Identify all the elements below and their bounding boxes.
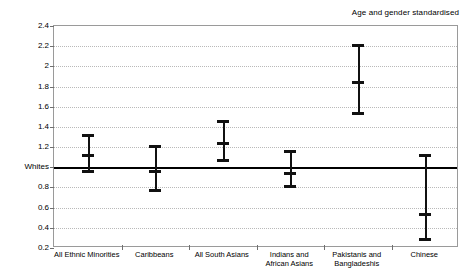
y-axis-tick: [50, 26, 54, 27]
error-bar-point-estimate: [284, 172, 296, 175]
error-bar-stem: [358, 44, 360, 115]
y-axis-tick: [50, 66, 54, 67]
y-axis-tick: [50, 187, 54, 188]
gridline: [54, 187, 457, 188]
error-bar-point-estimate: [149, 170, 161, 173]
y-axis-tick-label: 2.2: [38, 41, 49, 50]
gridline: [54, 127, 457, 128]
y-axis-tick-label: 1.6: [38, 101, 49, 110]
x-axis-category-label: All Ethnic Minorities: [53, 250, 121, 259]
x-axis-category-label: All South Asians: [188, 250, 256, 259]
error-bar-stem: [425, 154, 427, 241]
y-axis-tick: [50, 87, 54, 88]
error-bar-lower-cap: [82, 170, 94, 173]
error-bar-lower-cap: [149, 189, 161, 192]
y-axis-tick: [50, 248, 54, 249]
error-bar-point-estimate: [352, 81, 364, 84]
gridline: [54, 46, 457, 47]
gridline: [54, 228, 457, 229]
y-axis-tick-label: 0.8: [38, 182, 49, 191]
error-bar-upper-cap: [352, 44, 364, 47]
y-axis-tick-label: 2.4: [38, 21, 49, 30]
error-bar-point-estimate: [217, 142, 229, 145]
reference-line-whites: [54, 167, 457, 169]
gridline: [54, 87, 457, 88]
x-axis-category-label: Caribbeans: [121, 250, 189, 259]
chart-annotation: Age and gender standardised: [352, 8, 459, 17]
error-bar-stem: [223, 120, 225, 162]
y-axis-tick: [50, 208, 54, 209]
y-axis-tick: [50, 46, 54, 47]
x-axis-category-label: Pakistanis and Bangladeshis: [323, 250, 391, 268]
plot-area: [53, 25, 458, 247]
error-bar-point-estimate: [419, 213, 431, 216]
y-axis-reference-label: Whites: [25, 162, 49, 171]
y-axis-tick: [50, 107, 54, 108]
error-bar-upper-cap: [419, 154, 431, 157]
error-bar-lower-cap: [352, 112, 364, 115]
y-axis-tick-label: 1.2: [38, 142, 49, 151]
error-bar-upper-cap: [284, 150, 296, 153]
gridline: [54, 107, 457, 108]
gridline: [54, 208, 457, 209]
error-bar-upper-cap: [217, 120, 229, 123]
x-axis-category-label: Chinese: [391, 250, 459, 259]
error-bar-point-estimate: [82, 154, 94, 157]
error-bar-stem: [290, 150, 292, 188]
error-bar-stem: [155, 145, 157, 192]
y-axis-tick-label: 0.4: [38, 222, 49, 231]
chart-container: Age and gender standardised 0.20.40.60.8…: [0, 0, 470, 271]
y-axis-tick-label: 0.2: [38, 243, 49, 252]
gridline: [54, 66, 457, 67]
y-axis-tick: [50, 127, 54, 128]
y-axis-tick: [50, 228, 54, 229]
error-bar-lower-cap: [284, 185, 296, 188]
error-bar-upper-cap: [82, 134, 94, 137]
y-axis-tick-label: 2: [45, 61, 49, 70]
x-axis-category-label: Indians and African Asians: [256, 250, 324, 268]
error-bar-lower-cap: [217, 159, 229, 162]
error-bar-lower-cap: [419, 238, 431, 241]
error-bar-upper-cap: [149, 145, 161, 148]
y-axis-tick: [50, 147, 54, 148]
y-axis-tick-label: 1.4: [38, 121, 49, 130]
y-axis-tick-label: 0.6: [38, 202, 49, 211]
y-axis-tick-label: 1.8: [38, 81, 49, 90]
gridline: [54, 147, 457, 148]
